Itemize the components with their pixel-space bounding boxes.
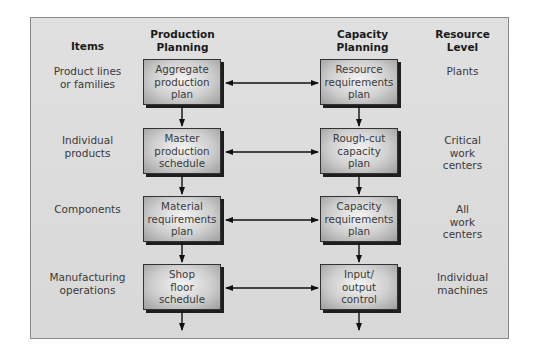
arrows-layer [0,0,533,357]
